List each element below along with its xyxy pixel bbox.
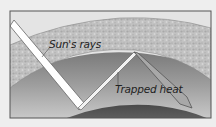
greenhouse-diagram — [0, 0, 216, 127]
sun-rays-label: Sun's rays — [49, 38, 101, 50]
trapped-heat-label: Trapped heat — [115, 83, 182, 95]
